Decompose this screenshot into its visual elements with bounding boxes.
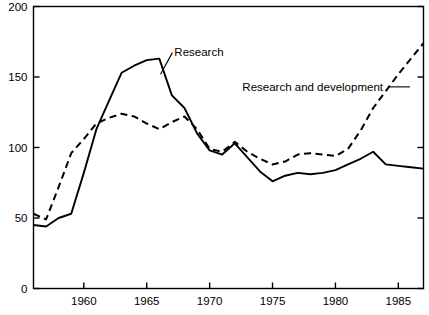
- x-tick-label: 1985: [386, 295, 412, 307]
- y-tick-label: 150: [8, 71, 27, 83]
- x-tick-label: 1965: [134, 295, 160, 307]
- annotation-leader-research: [161, 53, 173, 75]
- y-tick-label: 100: [8, 142, 27, 154]
- y-tick-label: 50: [15, 212, 28, 224]
- series-line-research-and-development: [34, 43, 424, 219]
- x-tick-label: 1980: [323, 295, 349, 307]
- x-tick-label: 1975: [260, 295, 286, 307]
- y-axis-ticks: 050100150200: [8, 1, 39, 295]
- y-tick-label: 200: [8, 1, 27, 13]
- y-tick-label: 0: [21, 283, 27, 295]
- right-axis-ticks: [418, 7, 424, 289]
- annotation-label-research-and-development: Research and development: [242, 81, 383, 93]
- x-axis-ticks: 196019651970197519801985: [71, 283, 411, 307]
- x-tick-label: 1970: [197, 295, 223, 307]
- data-series-group: [34, 43, 424, 226]
- series-annotations: ResearchResearch and development: [161, 46, 410, 93]
- annotation-label-research: Research: [174, 46, 223, 58]
- chart-container: 050100150200 196019651970197519801985 Re…: [0, 0, 429, 315]
- x-tick-label: 1960: [71, 295, 97, 307]
- line-chart: 050100150200 196019651970197519801985 Re…: [0, 0, 429, 315]
